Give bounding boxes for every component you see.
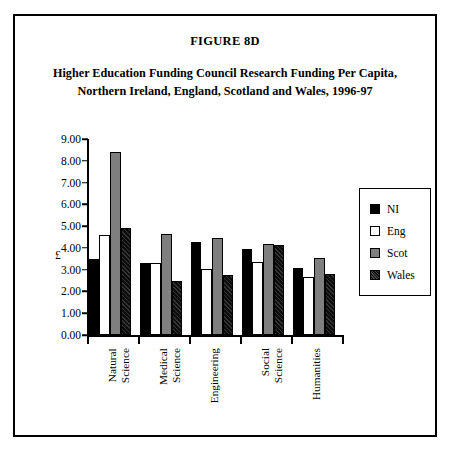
bar-wales-natural-science (121, 228, 132, 335)
legend-label: Wales (387, 269, 415, 281)
bar-group (240, 139, 291, 335)
bar-eng-natural-science (99, 235, 110, 335)
category-divider (342, 335, 344, 344)
bar-group (87, 139, 138, 335)
bar-wales-humanities (325, 274, 336, 335)
bar-eng-engineering (201, 269, 212, 335)
category-label-humanities: Humanities (310, 348, 323, 400)
bar-eng-medical-science (150, 263, 161, 335)
category-label-word: Medical (157, 348, 170, 385)
legend-swatch-ni (370, 204, 380, 214)
chart-title-line-1: Higher Education Funding Council Researc… (15, 64, 435, 82)
bar-ni-humanities (293, 268, 304, 336)
category-label-medical-science: MedicalScience (157, 348, 182, 385)
legend-swatch-wales (370, 270, 380, 280)
figure-frame: FIGURE 8D Higher Education Funding Counc… (13, 14, 437, 437)
category-label-natural-science: NaturalScience (106, 348, 131, 383)
figure-number: FIGURE 8D (15, 34, 435, 49)
bar-scot-social-science (263, 244, 274, 335)
category-divider (138, 335, 140, 344)
category-label-word: Science (271, 348, 284, 383)
bar-eng-humanities (303, 277, 314, 335)
legend-swatch-eng (370, 226, 380, 236)
bar-wales-engineering (223, 275, 234, 335)
y-axis-title: £ (55, 249, 61, 261)
category-label-word: Science (118, 348, 131, 383)
category-label-engineering: Engineering (208, 348, 221, 403)
category-divider (291, 335, 293, 344)
category-divider (240, 335, 242, 344)
bar-eng-social-science (252, 262, 263, 335)
bar-scot-humanities (314, 258, 325, 335)
bar-ni-engineering (191, 242, 202, 335)
category-label-word: Humanities (310, 348, 323, 400)
category-label-word: Social (259, 348, 272, 383)
legend-swatch-scot (370, 248, 380, 258)
bar-wales-medical-science (172, 281, 183, 335)
category-divider (87, 335, 89, 344)
bar-ni-social-science (242, 249, 253, 335)
legend: NIEngScotWales (359, 188, 431, 296)
legend-item-scot: Scot (370, 242, 430, 264)
x-axis-line (87, 335, 343, 337)
category-label-word: Engineering (208, 348, 221, 403)
legend-label: Scot (387, 247, 407, 259)
bar-ni-natural-science (89, 259, 100, 335)
legend-label: NI (387, 203, 399, 215)
bar-group (291, 139, 342, 335)
legend-item-ni: NI (370, 198, 430, 220)
legend-label: Eng (387, 225, 406, 237)
bar-ni-medical-science (140, 263, 151, 335)
plot-area: 0.001.002.003.004.005.006.007.008.009.00 (87, 139, 342, 335)
bar-wales-social-science (274, 245, 285, 335)
bar-scot-medical-science (161, 234, 172, 335)
category-label-social-science: SocialScience (259, 348, 284, 383)
category-label-word: Science (169, 348, 182, 385)
bar-scot-natural-science (110, 152, 121, 335)
bar-group (189, 139, 240, 335)
chart-title: Higher Education Funding Council Researc… (15, 64, 435, 100)
bar-group (138, 139, 189, 335)
legend-item-wales: Wales (370, 264, 430, 286)
category-label-word: Natural (106, 348, 119, 383)
category-divider (189, 335, 191, 344)
chart-title-line-2: Northern Ireland, England, Scotland and … (15, 82, 435, 100)
bar-scot-engineering (212, 238, 223, 335)
legend-item-eng: Eng (370, 220, 430, 242)
